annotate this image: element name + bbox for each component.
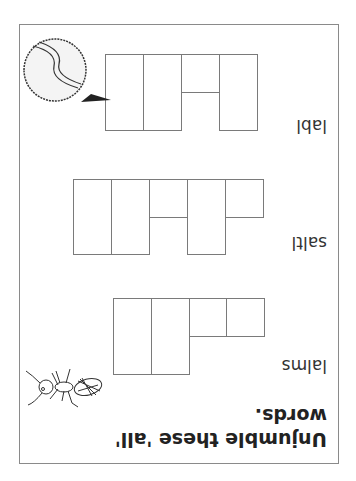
instruction-line-2: words. [87, 404, 327, 428]
instruction-line-1: Unjumble these 'all' [87, 428, 327, 452]
answer-cell[interactable] [189, 298, 227, 337]
jumbled-word: lalms [282, 356, 327, 376]
worksheet-page: Unjumble these 'all' words. lalms saltl [0, 0, 356, 481]
answer-cell[interactable] [113, 298, 152, 375]
tennis-ball-icon [21, 36, 111, 106]
answer-cell[interactable] [225, 179, 264, 218]
answer-cell[interactable] [219, 54, 258, 131]
jumbled-word: saltl [292, 233, 327, 253]
answer-cell[interactable] [187, 179, 226, 255]
answer-cell[interactable] [226, 298, 265, 337]
answer-cell[interactable] [151, 298, 190, 375]
answer-cell[interactable] [73, 179, 112, 255]
answer-cell[interactable] [143, 54, 182, 131]
ant-icon [23, 365, 108, 409]
jumbled-word: labl [296, 116, 327, 136]
answer-cell[interactable] [149, 179, 188, 218]
answer-cell[interactable] [111, 179, 150, 255]
instruction-heading: Unjumble these 'all' words. [87, 404, 327, 452]
answer-cell[interactable] [181, 54, 220, 93]
